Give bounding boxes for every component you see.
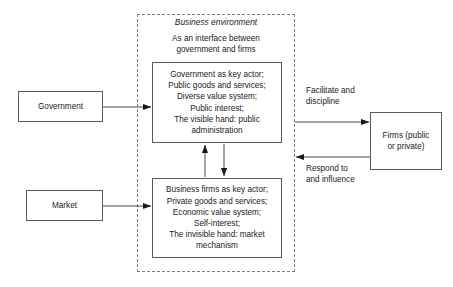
node-public-administration-label: Government as key actor; Public goods an…	[168, 69, 265, 136]
node-market[interactable]: Market	[26, 190, 103, 221]
business-environment-subtitle: As an interface between government and f…	[140, 33, 292, 55]
node-market-label: Market	[52, 200, 77, 211]
node-market-mechanism[interactable]: Business firms as key actor; Private goo…	[152, 178, 282, 258]
node-public-administration[interactable]: Government as key actor; Public goods an…	[152, 62, 282, 143]
node-government[interactable]: Government	[18, 91, 103, 122]
edge-label-respond-influence: Respond to and influence	[306, 163, 386, 186]
business-environment-title: Business environment	[137, 17, 295, 28]
node-firms[interactable]: Firms (public or private)	[370, 112, 442, 170]
node-firms-label: Firms (public or private)	[383, 130, 430, 152]
diagram-canvas: Business environment As an interface bet…	[0, 0, 453, 287]
node-government-label: Government	[38, 101, 83, 112]
node-market-mechanism-label: Business firms as key actor; Private goo…	[166, 184, 268, 251]
edge-label-facilitate-discipline: Facilitate and discipline	[306, 85, 381, 108]
